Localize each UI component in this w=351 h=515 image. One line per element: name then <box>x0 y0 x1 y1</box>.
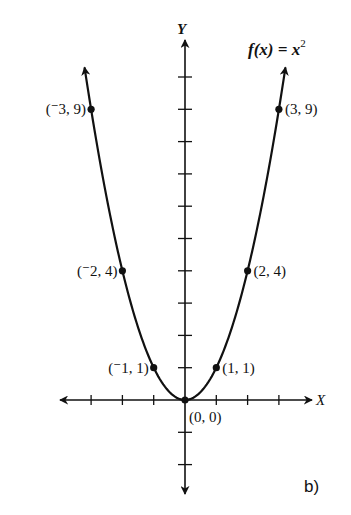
function-label: f(x) = x2 <box>248 37 306 59</box>
point-label: (⁻3, 9) <box>46 101 86 118</box>
data-points: (⁻3, 9)(⁻2, 4)(⁻1, 1)(0, 0)(1, 1)(2, 4)(… <box>46 101 318 426</box>
point-label: (⁻2, 4) <box>77 263 117 280</box>
point-label: (1, 1) <box>222 360 255 377</box>
data-point <box>119 267 126 274</box>
y-axis-label: Y <box>177 21 188 37</box>
data-point <box>244 267 251 274</box>
function-exponent: 2 <box>300 37 306 49</box>
function-label-text: f(x) = x <box>248 40 301 59</box>
data-point <box>213 364 220 371</box>
point-label: (0, 0) <box>189 409 222 426</box>
data-point <box>275 106 282 113</box>
data-point <box>150 364 157 371</box>
parabola-chart: (⁻3, 9)(⁻2, 4)(⁻1, 1)(0, 0)(1, 1)(2, 4)(… <box>0 0 351 515</box>
x-axis-label: X <box>315 392 326 408</box>
point-label: (2, 4) <box>254 263 287 280</box>
data-point <box>181 396 188 403</box>
panel-label: b) <box>304 477 319 496</box>
data-point <box>88 106 95 113</box>
point-label: (3, 9) <box>285 101 318 118</box>
point-label: (⁻1, 1) <box>108 360 148 377</box>
